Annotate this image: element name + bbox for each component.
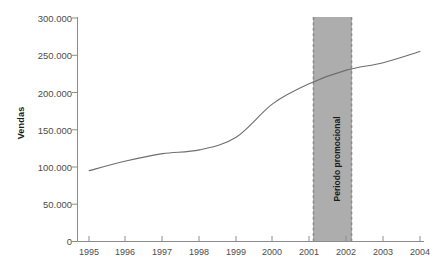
x-tick-label: 2001 <box>299 247 319 257</box>
sales-line-chart: Vendas 0 50.000 100.000 150.000 200.000 … <box>0 0 442 274</box>
x-tick-label: 2002 <box>336 247 356 257</box>
x-tick-label: 2003 <box>373 247 393 257</box>
sales-series-line <box>89 52 420 171</box>
x-tick-label: 1999 <box>226 247 246 257</box>
x-tick-label: 1998 <box>189 247 209 257</box>
chart-canvas <box>0 0 442 274</box>
x-tick-label: 1997 <box>152 247 172 257</box>
x-tick-label: 1995 <box>79 247 99 257</box>
x-tick-label: 2000 <box>262 247 282 257</box>
promotional-period-label: Periodo promocional <box>332 109 342 209</box>
x-tick-label: 1996 <box>115 247 135 257</box>
x-tick-label: 2004 <box>410 247 430 257</box>
